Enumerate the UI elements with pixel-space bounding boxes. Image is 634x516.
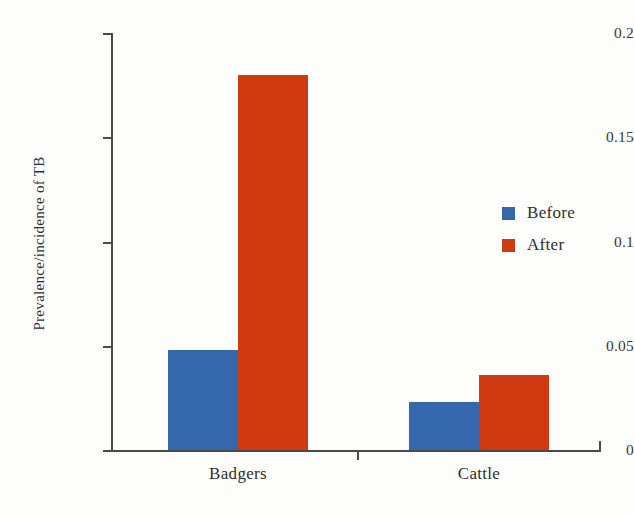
legend-swatch-before-icon (502, 207, 515, 220)
y-tick-mark-0.15 (103, 137, 112, 139)
legend-label-before: Before (527, 202, 575, 224)
bar-cattle-before[interactable] (409, 402, 479, 450)
bar-badgers-after[interactable] (238, 75, 308, 450)
bar-badgers-before[interactable] (168, 350, 238, 450)
y-tick-mark-0.2 (103, 33, 112, 35)
y-tick-mark-0.05 (103, 346, 112, 348)
y-tick-mark-0 (103, 450, 112, 452)
chart-page: Prevalence/incidence of TB 0.2 0.15 0.1 … (0, 0, 634, 516)
y-tick-label-0.05: 0.05 (572, 338, 634, 354)
legend-swatch-after-icon (502, 239, 515, 252)
y-tick-label-0: 0 (572, 442, 634, 458)
x-group-label-badgers: Badgers (178, 465, 298, 484)
y-tick-label-0.15: 0.15 (572, 129, 634, 145)
chart-legend: Before After (502, 202, 622, 266)
bar-chart-plot-area: Prevalence/incidence of TB 0.2 0.15 0.1 … (0, 0, 634, 516)
y-axis-title: Prevalence/incidence of TB (31, 119, 48, 369)
legend-label-after: After (527, 234, 564, 256)
legend-item-before[interactable]: Before (502, 202, 622, 234)
x-group-label-cattle: Cattle (419, 465, 539, 484)
x-tick-group-separator (357, 450, 359, 460)
legend-item-after[interactable]: After (502, 234, 622, 266)
y-tick-mark-0.1 (103, 242, 112, 244)
bar-cattle-after[interactable] (479, 375, 549, 450)
x-axis-line (111, 450, 601, 452)
x-axis-end-cap (599, 441, 601, 451)
y-tick-label-0.2: 0.2 (572, 25, 634, 41)
